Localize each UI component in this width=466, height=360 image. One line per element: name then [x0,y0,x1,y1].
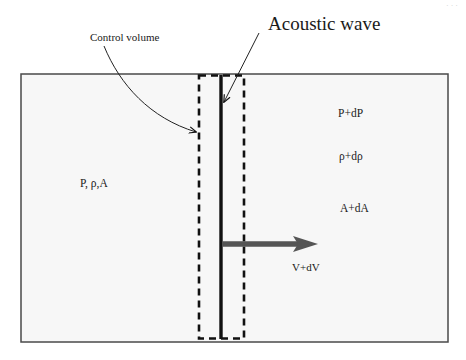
acoustic-wave-diagram [0,0,466,360]
flow-domain [21,74,448,342]
control-volume-label: Control volume [90,32,159,43]
acoustic-wave-label: Acoustic wave [268,14,380,33]
downstream-area-label: A+dA [340,203,369,215]
downstream-density-label: ρ+dρ [339,151,363,163]
downstream-velocity-label: V+dV [292,262,320,273]
upstream-state-label: P, ρ,A [80,178,108,190]
downstream-pressure-label: P+dP [338,108,363,120]
